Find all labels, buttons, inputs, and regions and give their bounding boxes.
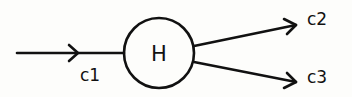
edge-c2-line	[194, 25, 296, 46]
diagram-canvas: H c1 c2 c3	[0, 0, 352, 97]
edge-c3-label: c3	[307, 67, 327, 87]
edge-c2-label: c2	[307, 9, 327, 29]
edge-c3-line	[194, 62, 296, 82]
edge-c1-label: c1	[80, 65, 100, 85]
node-h-label: H	[151, 42, 167, 66]
